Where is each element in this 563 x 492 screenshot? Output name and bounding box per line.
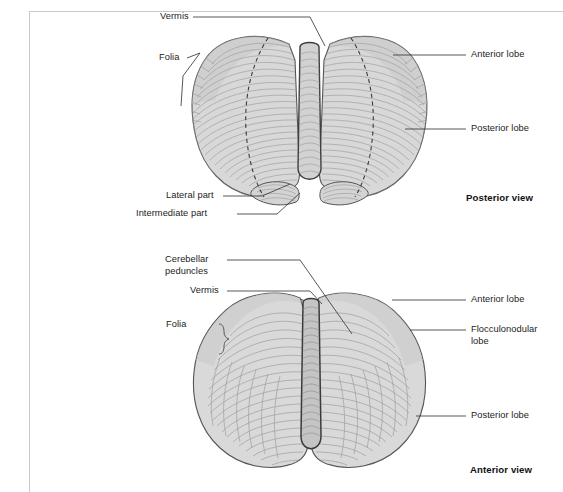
caption-posterior-view: Posterior view	[466, 192, 533, 203]
label-folia-posterior: Folia	[159, 52, 179, 64]
label-cerebellar-peduncles-line2: peduncles	[165, 266, 208, 278]
label-vermis-anterior: Vermis	[190, 285, 219, 297]
caption-anterior-view: Anterior view	[470, 464, 532, 475]
label-cerebellar-peduncles-line1: Cerebellar	[165, 254, 208, 266]
label-vermis-posterior: Vermis	[160, 11, 189, 23]
cerebellum-anterior-illustration	[0, 246, 563, 492]
label-lateral-part: Lateral part	[166, 190, 214, 202]
label-posterior-lobe-anterior: Posterior lobe	[471, 410, 529, 422]
label-folia-anterior: Folia	[166, 319, 186, 331]
label-flocculonodular-lobe: Flocculonodular lobe	[471, 324, 549, 347]
vermis-anterior	[301, 299, 321, 449]
label-anterior-lobe-posterior: Anterior lobe	[471, 49, 524, 61]
panel-anterior-view: Cerebellar peduncles Vermis Folia Anteri…	[0, 246, 563, 492]
panel-posterior-view: Vermis Folia Anterior lobe Posterior lob…	[0, 0, 563, 246]
label-posterior-lobe-posterior: Posterior lobe	[471, 123, 529, 135]
left-hemisphere-anterior	[193, 293, 308, 467]
vermis-posterior	[298, 43, 321, 180]
label-intermediate-part: Intermediate part	[136, 208, 207, 220]
right-hemisphere-posterior	[319, 31, 436, 205]
figure-root: Vermis Folia Anterior lobe Posterior lob…	[0, 0, 563, 492]
left-hemisphere-posterior	[183, 31, 300, 205]
label-anterior-lobe-anterior: Anterior lobe	[471, 294, 524, 306]
right-hemisphere-anterior	[311, 293, 426, 467]
